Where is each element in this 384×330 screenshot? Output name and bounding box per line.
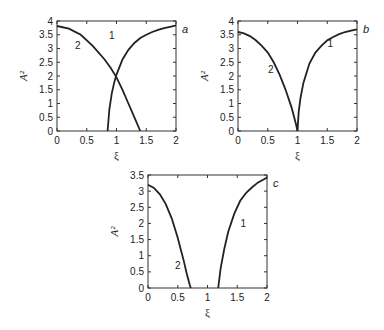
- y-tick-label: 4: [47, 16, 53, 27]
- y-tick-label: 0.5: [220, 112, 234, 123]
- x-axis-label: ξ: [114, 149, 119, 162]
- y-tick-label: 0: [138, 283, 144, 294]
- y-tick-label: 3: [228, 43, 234, 54]
- y-tick-label: 2: [138, 218, 144, 229]
- y-tick-label: 1: [228, 98, 234, 109]
- y-tick-label: 2: [47, 71, 53, 82]
- curve-label: 2: [75, 40, 81, 51]
- y-tick-label: 3.5: [220, 29, 234, 40]
- figure: 00.511.5200.511.522.533.54ξA²a1200.511.5…: [0, 0, 384, 330]
- x-tick-label: 0.5: [171, 292, 185, 303]
- x-tick-label: 1.5: [320, 135, 334, 146]
- x-tick-label: 1: [114, 135, 120, 146]
- y-tick-label: 1.5: [130, 234, 144, 245]
- y-tick-label: 0: [47, 126, 53, 137]
- y-tick-label: 3.5: [39, 29, 53, 40]
- plot-frame-c: [148, 175, 267, 288]
- x-axis-label: ξ: [295, 149, 300, 162]
- y-tick-label: 0: [228, 126, 234, 137]
- panel-label: c: [273, 177, 279, 189]
- x-tick-label: 2: [264, 292, 270, 303]
- x-tick-label: 0: [235, 135, 241, 146]
- curve-label: 1: [109, 30, 115, 41]
- y-tick-label: 4: [228, 16, 234, 27]
- curve-2: [57, 26, 140, 131]
- y-tick-label: 3: [47, 43, 53, 54]
- x-tick-label: 0.5: [261, 135, 275, 146]
- x-tick-label: 2: [173, 135, 179, 146]
- y-tick-label: 1.5: [39, 84, 53, 95]
- y-tick-label: 0.5: [130, 266, 144, 277]
- curve-2: [238, 32, 298, 131]
- curve-2: [148, 185, 191, 288]
- y-axis-label: A²: [198, 70, 210, 82]
- x-tick-label: 1: [295, 135, 301, 146]
- y-tick-label: 2.5: [220, 57, 234, 68]
- x-tick-label: 1: [205, 292, 211, 303]
- y-tick-label: 2.5: [39, 57, 53, 68]
- curve-label: 2: [175, 260, 181, 271]
- y-tick-label: 1.5: [220, 84, 234, 95]
- y-axis-label: A²: [108, 226, 120, 238]
- y-tick-label: 3: [138, 186, 144, 197]
- x-tick-label: 0: [54, 135, 60, 146]
- x-tick-label: 1.5: [139, 135, 153, 146]
- y-tick-label: 1: [138, 250, 144, 261]
- y-axis-label: A²: [17, 70, 29, 82]
- x-tick-label: 0.5: [80, 135, 94, 146]
- x-axis-label: ξ: [205, 306, 210, 319]
- curve-label: 1: [240, 218, 246, 229]
- x-tick-label: 0: [145, 292, 151, 303]
- y-tick-label: 1: [47, 98, 53, 109]
- y-tick-label: 2: [228, 71, 234, 82]
- panel-label: a: [182, 23, 188, 35]
- y-tick-label: 2.5: [130, 202, 144, 213]
- panel-label: b: [363, 23, 369, 35]
- x-tick-label: 1.5: [230, 292, 244, 303]
- curve-1: [218, 178, 267, 288]
- y-tick-label: 0.5: [39, 112, 53, 123]
- x-tick-label: 2: [354, 135, 360, 146]
- curve-label: 1: [327, 38, 333, 49]
- curve-label: 2: [268, 64, 274, 75]
- y-tick-label: 3.5: [130, 170, 144, 181]
- plot-frame-b: [238, 21, 357, 131]
